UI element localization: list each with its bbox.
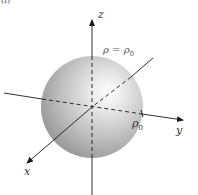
radius-label: ρ0 — [132, 117, 143, 132]
z-axis-label: z — [98, 8, 104, 21]
x-axis-label: x — [24, 165, 30, 178]
equation-lhs: ρ — [103, 44, 109, 55]
equation-operator: = — [112, 44, 120, 55]
equation-rhs-subscript: 0 — [130, 50, 134, 58]
y-axis-label: y — [176, 124, 182, 137]
panel-label: (f) — [1, 0, 10, 5]
radius-subscript: 0 — [138, 124, 142, 132]
spherical-coordinate-figure: (f) z y x ρ = ρ0 ρ0 — [0, 0, 198, 195]
surface-equation: ρ = ρ0 — [103, 44, 134, 58]
